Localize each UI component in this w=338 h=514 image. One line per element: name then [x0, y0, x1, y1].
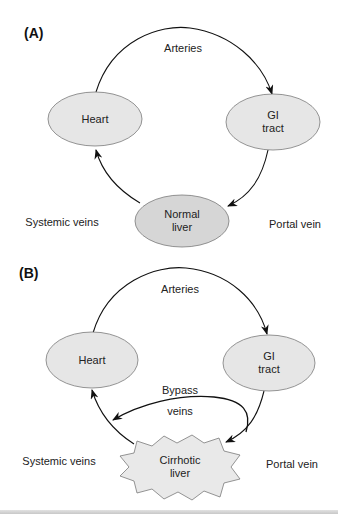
panel-a-portal-vein-label: Portal vein: [269, 218, 321, 231]
panel-a-gi-line2: tract: [262, 122, 283, 135]
panel-b-heart-label: Heart: [79, 354, 106, 367]
panel-b-liver-line2: liver: [160, 467, 201, 480]
panel-a-liver-label: Normal liver: [164, 208, 199, 234]
panel-a-arteries-arrow: [96, 27, 272, 94]
panel-a-label: (A): [24, 25, 43, 41]
panel-b-veins-label: veins: [167, 405, 193, 418]
panel-b-gi-line1: GI: [258, 350, 279, 363]
panel-a-gi-tract-label: GI tract: [262, 109, 283, 135]
panel-a-liver-line2: liver: [164, 221, 199, 234]
panel-a-liver-line1: Normal: [164, 208, 199, 221]
diagram-graphics: [0, 0, 338, 514]
panel-b-gi-line2: tract: [258, 363, 279, 376]
circulation-diagram: (A) Arteries Heart GI tract Normal liver…: [0, 0, 338, 514]
panel-b-label: (B): [19, 265, 38, 281]
panel-b-arteries-arrow: [93, 268, 267, 334]
panel-b-portal-vein-arrow: [226, 391, 264, 442]
panel-b-liver-line1: Cirrhotic: [160, 454, 201, 467]
panel-b-liver-label: Cirrhotic liver: [160, 454, 201, 480]
panel-b-systemic-veins-label: Systemic veins: [22, 455, 95, 468]
panel-a-heart-label: Heart: [82, 113, 109, 126]
panel-b-arteries-label: Arteries: [161, 283, 199, 296]
panel-a-systemic-veins-arrow: [96, 150, 140, 203]
panel-a-gi-line1: GI: [262, 109, 283, 122]
page-bottom-edge: [0, 510, 338, 514]
panel-b-gi-tract-label: GI tract: [258, 350, 279, 376]
panel-b-bypass-label: Bypass: [162, 384, 198, 397]
panel-b-systemic-veins-arrow: [92, 390, 134, 444]
panel-a-portal-vein-arrow: [228, 150, 268, 206]
panel-a-arteries-label: Arteries: [164, 42, 202, 55]
panel-b-portal-vein-label: Portal vein: [266, 458, 318, 471]
panel-a-systemic-veins-label: Systemic veins: [25, 216, 98, 229]
